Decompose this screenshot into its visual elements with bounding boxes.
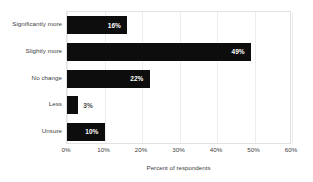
bar[interactable]: 10% — [67, 123, 105, 141]
category-label: No change — [0, 74, 62, 81]
plot-area: 16%49%22%3%10% — [66, 11, 291, 144]
bar-value-label: 10% — [85, 128, 104, 135]
bar-row: 3% — [67, 96, 290, 114]
category-label: Unsure — [0, 127, 62, 134]
x-tick-label: 40% — [210, 146, 222, 153]
x-axis-tick-labels: 0%10%20%30%40%50%60% — [66, 146, 291, 158]
x-tick-label: 30% — [172, 146, 184, 153]
bar-value-label: 3% — [78, 102, 93, 109]
bar-value-label: 49% — [231, 48, 250, 55]
bar-value-label: 22% — [130, 75, 149, 82]
category-axis-labels: Significantly moreSlightly moreNo change… — [0, 11, 62, 144]
bar-value-label: 16% — [108, 22, 127, 29]
bar[interactable]: 22% — [67, 70, 150, 88]
bar[interactable] — [67, 96, 78, 114]
x-tick-label: 20% — [135, 146, 147, 153]
bar-series: 16%49%22%3%10% — [67, 12, 290, 143]
x-tick-label: 60% — [285, 146, 297, 153]
bar-row: 10% — [67, 123, 290, 141]
x-tick-label: 0% — [62, 146, 71, 153]
bar-row: 22% — [67, 70, 290, 88]
category-label: Significantly more — [0, 20, 62, 27]
x-tick-label: 10% — [97, 146, 109, 153]
bar[interactable]: 49% — [67, 43, 251, 61]
bar-row: 16% — [67, 16, 290, 34]
x-tick-label: 50% — [247, 146, 259, 153]
gridline-60 — [292, 12, 293, 143]
bar[interactable]: 16% — [67, 16, 127, 34]
bar-row: 49% — [67, 43, 290, 61]
category-label: Slightly more — [0, 47, 62, 54]
x-axis-title: Percent of respondents — [66, 164, 291, 171]
category-label: Less — [0, 100, 62, 107]
bar-chart: 16%49%22%3%10% Significantly moreSlightl… — [0, 0, 313, 182]
